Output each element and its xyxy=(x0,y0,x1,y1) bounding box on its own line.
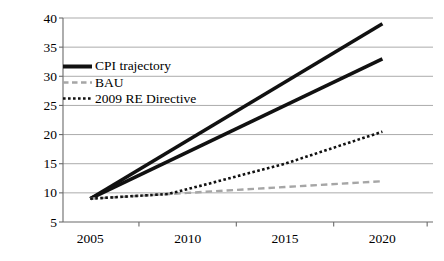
legend-label: 2009 RE Directive xyxy=(95,92,196,106)
legend-label: BAU xyxy=(95,76,124,90)
y-tick-label: 40 xyxy=(44,11,58,26)
dashed-line-swatch-icon xyxy=(63,78,92,87)
y-tick-label: 30 xyxy=(44,69,58,84)
dotted-line-swatch-icon xyxy=(63,94,92,103)
x-tick-label: 2020 xyxy=(369,231,396,246)
solid-line-swatch-icon xyxy=(63,62,92,71)
legend-item-cpi-trajectory: CPI trajectory xyxy=(63,58,196,74)
y-tick-label: 5 xyxy=(50,215,57,230)
x-tick-label: 2010 xyxy=(174,231,201,246)
chart-container: 5101520253035402005201020152020 CPI traj… xyxy=(0,0,444,261)
legend-item-bau: BAU xyxy=(63,74,196,90)
y-tick-label: 15 xyxy=(44,156,58,171)
x-tick-label: 2015 xyxy=(272,231,299,246)
series-bau xyxy=(90,181,382,199)
x-tick-label: 2005 xyxy=(77,231,104,246)
y-tick-label: 10 xyxy=(44,185,58,200)
y-tick-label: 20 xyxy=(44,127,58,142)
series-2009-re-directive xyxy=(90,132,382,199)
chart-legend: CPI trajectory BAU 2009 RE Directive xyxy=(63,58,196,107)
legend-item-2009-re-directive: 2009 RE Directive xyxy=(63,91,196,107)
y-tick-label: 35 xyxy=(44,40,58,55)
line-chart-plot: 5101520253035402005201020152020 xyxy=(0,0,444,261)
series-cpi-trajectory-upper- xyxy=(90,24,382,199)
y-tick-label: 25 xyxy=(44,98,58,113)
legend-label: CPI trajectory xyxy=(95,59,171,73)
